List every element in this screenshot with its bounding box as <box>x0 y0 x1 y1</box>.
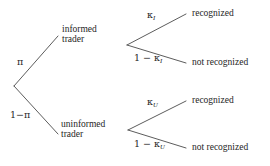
branch-probability-kappa-informed: κI <box>147 10 155 20</box>
branch-probability-kappa-uninformed: κU <box>147 97 158 107</box>
node-uninformed-trader-line1: uninformed <box>61 119 105 129</box>
branch-probability-one-minus-kappa-informed: 1 − κI <box>134 53 162 63</box>
branch-probability-pi: π <box>17 57 23 67</box>
one-minus-kappa-glyph: 1 − κ <box>134 52 160 63</box>
node-informed-trader-line2: trader <box>62 34 97 44</box>
decision-tree-diagram: π 1−π κI 1 − κI κU 1 − κU informed trade… <box>0 0 270 166</box>
kappa-subscript-I: I <box>153 14 155 21</box>
one-minus-kappa-subscript-I: I <box>160 57 162 64</box>
one-minus-kappa-subscript-U: U <box>160 143 165 150</box>
node-uninformed-trader: uninformed trader <box>61 119 105 140</box>
leaf-informed-not-recognized: not recognized <box>192 57 248 67</box>
leaf-uninformed-recognized: recognized <box>192 95 234 105</box>
branch-probability-one-minus-kappa-uninformed: 1 − κU <box>134 139 165 149</box>
leaf-uninformed-not-recognized: not recognized <box>192 142 248 152</box>
node-informed-trader-line1: informed <box>62 24 97 34</box>
node-uninformed-trader-line2: trader <box>61 129 105 139</box>
one-minus-kappa-glyph-u: 1 − κ <box>134 138 160 149</box>
kappa-subscript-U: U <box>153 101 158 108</box>
node-informed-trader: informed trader <box>62 24 97 45</box>
branch-probability-one-minus-pi: 1−π <box>10 110 30 120</box>
leaf-informed-recognized: recognized <box>192 8 234 18</box>
edge-informed-to-recognized <box>127 14 186 45</box>
